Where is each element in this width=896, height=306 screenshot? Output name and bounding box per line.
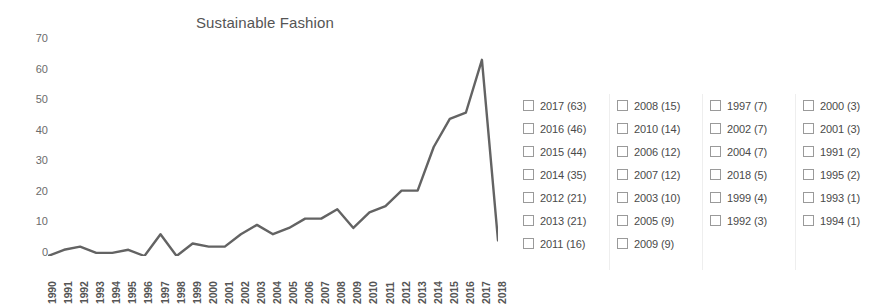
x-axis-tick: 2007: [320, 281, 330, 304]
legend-item-1992[interactable]: 1992 (3): [710, 209, 795, 232]
x-axis-tick: 2008: [336, 281, 346, 304]
x-axis-tick: 2013: [417, 281, 427, 304]
x-axis-tick: 2002: [240, 281, 250, 304]
x-axis-tick: 2011: [385, 282, 395, 304]
x-axis: 1990199119921993199419951996199719981999…: [48, 256, 498, 304]
checkbox-icon[interactable]: [710, 169, 721, 180]
checkbox-icon[interactable]: [617, 215, 628, 226]
checkbox-icon[interactable]: [523, 215, 534, 226]
checkbox-icon[interactable]: [523, 146, 534, 157]
checkbox-icon[interactable]: [710, 192, 721, 203]
checkbox-icon[interactable]: [523, 169, 534, 180]
legend-item-2004[interactable]: 2004 (7): [710, 140, 795, 163]
legend-item-label: 2000 (3): [820, 100, 860, 112]
x-axis-tick: 2000: [208, 281, 218, 304]
legend-item-2003[interactable]: 2003 (10): [617, 186, 702, 209]
y-axis-tick: 70: [36, 33, 48, 44]
legend-item-label: 1997 (7): [727, 100, 767, 112]
checkbox-icon[interactable]: [523, 123, 534, 134]
legend-item-2002[interactable]: 2002 (7): [710, 117, 795, 140]
x-axis-tick: 1991: [63, 281, 73, 304]
legend-column: 1997 (7)2002 (7)2004 (7)2018 (5)1999 (4)…: [702, 94, 795, 270]
legend-item-1997[interactable]: 1997 (7): [710, 94, 795, 117]
checkbox-icon[interactable]: [617, 100, 628, 111]
legend-item-1995[interactable]: 1995 (2): [803, 163, 888, 186]
legend-item-label: 2006 (12): [634, 146, 680, 158]
legend-item-label: 2001 (3): [820, 123, 860, 135]
legend-item-1994[interactable]: 1994 (1): [803, 209, 888, 232]
x-axis-tick: 2005: [288, 281, 298, 304]
legend-item-2011[interactable]: 2011 (16): [523, 232, 609, 255]
y-axis-tick: 40: [36, 125, 48, 136]
legend-item-label: 2009 (9): [634, 238, 674, 250]
legend-item-2013[interactable]: 2013 (21): [523, 209, 609, 232]
legend-item-1999[interactable]: 1999 (4): [710, 186, 795, 209]
legend-item-2014[interactable]: 2014 (35): [523, 163, 609, 186]
x-axis-tick: 2015: [449, 281, 459, 304]
checkbox-icon[interactable]: [617, 238, 628, 249]
checkbox-icon[interactable]: [617, 146, 628, 157]
legend-item-label: 1995 (2): [820, 169, 860, 181]
checkbox-icon[interactable]: [617, 192, 628, 203]
checkbox-icon[interactable]: [803, 123, 814, 134]
legend-column: 2000 (3)2001 (3)1991 (2)1995 (2)1993 (1)…: [795, 94, 888, 270]
x-axis-tick: 2006: [304, 281, 314, 304]
legend-item-2018[interactable]: 2018 (5): [710, 163, 795, 186]
line-series-svg: [48, 38, 498, 256]
legend-item-label: 2004 (7): [727, 146, 767, 158]
x-axis-tick: 2003: [256, 281, 266, 304]
legend-item-label: 2011 (16): [540, 238, 585, 250]
legend-item-label: 2015 (44): [540, 146, 586, 158]
chart-page: Sustainable Fashion 706050403020100 1990…: [0, 0, 896, 306]
legend-item-2012[interactable]: 2012 (21): [523, 186, 609, 209]
checkbox-icon[interactable]: [710, 146, 721, 157]
legend-item-label: 2003 (10): [634, 192, 680, 204]
x-axis-tick: 2017: [481, 281, 491, 304]
y-axis-tick: 20: [36, 186, 48, 197]
legend-item-2006[interactable]: 2006 (12): [617, 140, 702, 163]
legend-item-2001[interactable]: 2001 (3): [803, 117, 888, 140]
checkbox-icon[interactable]: [523, 100, 534, 111]
legend-filter-panel: 2017 (63)2016 (46)2015 (44)2014 (35)2012…: [516, 94, 888, 270]
checkbox-icon[interactable]: [803, 192, 814, 203]
checkbox-icon[interactable]: [617, 123, 628, 134]
legend-item-1991[interactable]: 1991 (2): [803, 140, 888, 163]
x-axis-tick: 2001: [224, 281, 234, 304]
legend-item-label: 1994 (1): [820, 215, 860, 227]
checkbox-icon[interactable]: [803, 146, 814, 157]
legend-item-2017[interactable]: 2017 (63): [523, 94, 609, 117]
legend-item-label: 2016 (46): [540, 123, 586, 135]
checkbox-icon[interactable]: [710, 123, 721, 134]
checkbox-icon[interactable]: [803, 169, 814, 180]
legend-item-2010[interactable]: 2010 (14): [617, 117, 702, 140]
legend-item-2000[interactable]: 2000 (3): [803, 94, 888, 117]
checkbox-icon[interactable]: [710, 215, 721, 226]
legend-item-label: 1993 (1): [820, 192, 860, 204]
legend-item-2009[interactable]: 2009 (9): [617, 232, 702, 255]
legend-item-2005[interactable]: 2005 (9): [617, 209, 702, 232]
legend-item-label: 2002 (7): [727, 123, 767, 135]
x-axis-tick: 1998: [176, 281, 186, 304]
legend-item-1993[interactable]: 1993 (1): [803, 186, 888, 209]
x-axis-tick: 1990: [47, 281, 57, 304]
legend-item-label: 2017 (63): [540, 100, 586, 112]
x-axis-tick: 1994: [111, 281, 121, 304]
legend-column: 2017 (63)2016 (46)2015 (44)2014 (35)2012…: [516, 94, 609, 270]
legend-item-2007[interactable]: 2007 (12): [617, 163, 702, 186]
legend-item-label: 1992 (3): [727, 215, 767, 227]
checkbox-icon[interactable]: [710, 100, 721, 111]
x-axis-tick: 2010: [368, 281, 378, 304]
checkbox-icon[interactable]: [523, 192, 534, 203]
legend-item-label: 1991 (2): [820, 146, 860, 158]
checkbox-icon[interactable]: [803, 100, 814, 111]
checkbox-icon[interactable]: [617, 169, 628, 180]
legend-item-2008[interactable]: 2008 (15): [617, 94, 702, 117]
legend-item-label: 1999 (4): [727, 192, 767, 204]
checkbox-icon[interactable]: [803, 215, 814, 226]
legend-item-2016[interactable]: 2016 (46): [523, 117, 609, 140]
x-axis-tick: 2014: [433, 281, 443, 304]
y-axis-tick: 50: [36, 94, 48, 105]
legend-item-2015[interactable]: 2015 (44): [523, 140, 609, 163]
checkbox-icon[interactable]: [523, 238, 534, 249]
y-axis-tick: 60: [36, 64, 48, 75]
